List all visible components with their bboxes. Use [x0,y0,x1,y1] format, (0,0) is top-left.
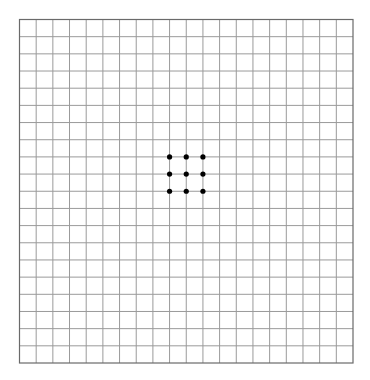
dot[interactable] [167,189,172,194]
grid-board[interactable] [0,0,370,380]
dot[interactable] [167,154,172,159]
dot[interactable] [200,154,205,159]
dot[interactable] [167,171,172,176]
dot[interactable] [184,154,189,159]
dot[interactable] [200,171,205,176]
dot[interactable] [200,189,205,194]
dot[interactable] [184,171,189,176]
dot[interactable] [184,189,189,194]
